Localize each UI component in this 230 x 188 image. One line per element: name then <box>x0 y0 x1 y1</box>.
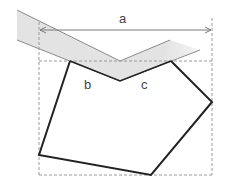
label-a: a <box>119 11 127 26</box>
diagram-canvas: a b c <box>0 0 230 188</box>
label-c: c <box>141 77 148 92</box>
dimension-arrow-a <box>40 27 211 33</box>
label-b: b <box>84 77 91 92</box>
polygon-outline <box>39 61 212 175</box>
shaded-band <box>17 10 200 81</box>
